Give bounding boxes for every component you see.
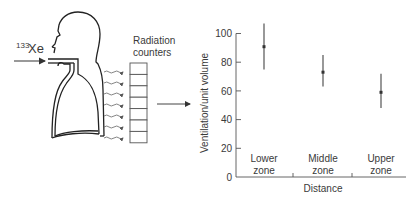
human-silhouette-icon [48,12,104,138]
svg-text:100: 100 [215,28,232,39]
data-point-middle-zone [322,55,325,87]
data-series [263,24,383,109]
svg-text:zone: zone [312,165,334,176]
data-point-upper-zone [380,74,383,108]
svg-text:20: 20 [221,143,233,154]
svg-text:Upper: Upper [367,153,395,164]
y-axis-label: Ventilation/unit volume [199,53,210,154]
svg-text:counters: counters [133,47,171,58]
radiation-counter-stack [130,63,147,143]
data-point-lower-zone [263,24,266,70]
ventilation-chart: 100 80 60 40 20 0 Ventilation/unit volum… [199,24,406,195]
svg-text:60: 60 [221,86,233,97]
svg-text:40: 40 [221,114,233,125]
svg-text:80: 80 [221,57,233,68]
radiation-waves-icon [104,71,123,139]
svg-text:Lower: Lower [250,153,278,164]
figure: 133 Xe Radiation counters [0,0,417,203]
svg-text:Xe: Xe [28,41,44,56]
counters-label: Radiation counters [133,35,175,58]
svg-text:zone: zone [253,165,275,176]
y-tick-labels: 100 80 60 40 20 0 [215,28,232,183]
category-labels: Lower zone Middle zone Upper zone [250,153,395,176]
svg-text:Radiation: Radiation [133,35,175,46]
x-axis-label: Distance [304,183,343,194]
tracer-label: 133 Xe [16,41,44,56]
svg-text:Middle: Middle [308,153,338,164]
y-ticks [236,34,241,149]
svg-text:zone: zone [370,165,392,176]
svg-text:0: 0 [226,172,232,183]
